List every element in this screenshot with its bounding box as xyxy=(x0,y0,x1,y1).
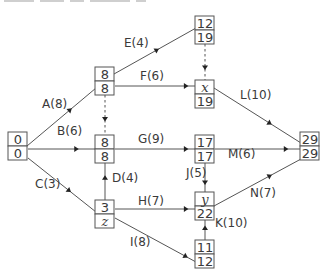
arrowhead-icon xyxy=(202,180,208,185)
node-n5: 1717 xyxy=(195,135,214,164)
edge-label: I(8) xyxy=(130,235,151,249)
latest-time: 0 xyxy=(14,146,22,161)
latest-time: 8 xyxy=(101,149,109,164)
latest-time: 19 xyxy=(197,94,214,109)
arrowhead-icon xyxy=(74,146,79,152)
latest-time: z xyxy=(101,214,109,229)
node-end: 2929 xyxy=(300,132,319,161)
latest-time: 19 xyxy=(197,30,214,45)
node-n1: 88 xyxy=(95,67,114,96)
arrowhead-icon xyxy=(184,83,189,89)
edge-label: G(9) xyxy=(138,132,164,146)
latest-time: 22 xyxy=(197,206,214,221)
arrowhead-icon xyxy=(102,117,108,122)
arrowhead-icon xyxy=(284,146,289,152)
node-start: 00 xyxy=(8,132,27,161)
earliest-time: 8 xyxy=(101,135,109,150)
arrowhead-icon xyxy=(102,175,108,180)
edge-label: J(5) xyxy=(185,166,207,180)
node-n2: 1219 xyxy=(195,16,214,45)
arrowhead-icon xyxy=(66,187,71,192)
earliest-time: y xyxy=(200,192,209,207)
earliest-time: 29 xyxy=(302,132,319,147)
node-n3: x19 xyxy=(195,80,214,109)
node-n8: 1112 xyxy=(195,240,214,269)
activity-network-diagram: 00881219x198817173zy2211122929 A(8)B(6)C… xyxy=(0,0,326,280)
edge-label: D(4) xyxy=(112,171,138,185)
earliest-time: 11 xyxy=(197,240,214,255)
edge-label: B(6) xyxy=(57,124,82,138)
edge-label: A(8) xyxy=(42,97,67,111)
latest-time: 8 xyxy=(101,81,109,96)
arrowhead-icon xyxy=(184,206,189,212)
arrowhead-icon xyxy=(202,66,208,71)
latest-time: 29 xyxy=(302,146,319,161)
latest-time: 12 xyxy=(197,254,214,269)
arrowhead-icon xyxy=(184,146,189,152)
earliest-time: x xyxy=(201,80,209,95)
edge-label: N(7) xyxy=(250,186,276,200)
latest-time: 17 xyxy=(197,149,214,164)
earliest-time: 0 xyxy=(14,132,22,147)
edge-label: K(10) xyxy=(215,216,248,230)
node-n6: 3z xyxy=(95,200,114,229)
edge-label: F(6) xyxy=(140,69,164,83)
earliest-time: 17 xyxy=(197,135,214,150)
node-n7: y22 xyxy=(195,192,214,221)
earliest-time: 3 xyxy=(101,200,109,215)
edge-label: L(10) xyxy=(240,88,271,102)
edge-label: C(3) xyxy=(35,177,60,191)
edge-label: M(6) xyxy=(228,147,255,161)
arrowhead-icon xyxy=(202,226,208,231)
node-n4: 88 xyxy=(95,135,114,164)
earliest-time: 12 xyxy=(197,16,214,31)
edge-label: H(7) xyxy=(138,194,164,208)
earliest-time: 8 xyxy=(101,67,109,82)
edge-label: E(4) xyxy=(124,36,149,50)
